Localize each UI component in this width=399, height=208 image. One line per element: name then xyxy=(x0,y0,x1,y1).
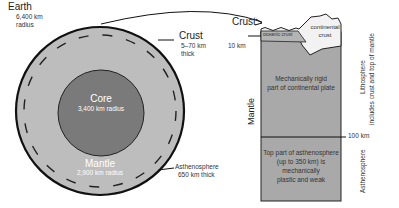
depth-100km-label: 100 km xyxy=(348,133,369,140)
lithosphere-side-label: Lithosphere xyxy=(360,60,367,94)
mantle-title: Mantle xyxy=(80,159,120,170)
rigid-plate-line2: part of continental plate xyxy=(262,85,340,92)
earth-title: Earth xyxy=(8,2,32,13)
asthenosphere-thickness: 650 km thick xyxy=(178,172,215,179)
crust-title: Crust xyxy=(179,31,203,42)
asthenosphere-title: Asthenosphere xyxy=(175,164,219,171)
earth-radius-unit: radius xyxy=(16,22,34,29)
crust-thickness: 5–70 km xyxy=(181,43,206,50)
asthenosphere-side-label: Asthenosphere xyxy=(360,149,367,193)
rigid-plate-line1: Mechanically rigid xyxy=(262,76,340,83)
asthenosphere-desc-line1: Top part of asthenosphere xyxy=(262,150,340,157)
mantle-radius: 2,900 km radius xyxy=(70,170,130,177)
oceanic-crust-label: oceanic crust xyxy=(263,32,292,37)
core-title: Core xyxy=(81,94,121,105)
continental-crust-label-1: continental xyxy=(308,24,342,30)
core-radius: 3,400 km radius xyxy=(71,106,131,113)
asthenosphere-desc-line2: (up to 350 km) is xyxy=(262,159,340,166)
earth-radius: 6,400 km xyxy=(16,14,43,21)
section-crust-depth: 10 km xyxy=(228,43,246,50)
mantle-side-label: Mantle xyxy=(247,98,256,125)
crust-thickness-unit: thick xyxy=(181,51,194,58)
continental-crust-label-2: crust xyxy=(308,32,342,38)
lithosphere-side-desc: includes crust and top of mantle xyxy=(369,33,376,125)
core-circle xyxy=(58,70,144,156)
asthenosphere-desc-line4: plastic and weak xyxy=(262,177,340,184)
section-crust-title: Crust xyxy=(232,17,256,28)
asthenosphere-desc-line3: mechanically xyxy=(262,168,340,175)
